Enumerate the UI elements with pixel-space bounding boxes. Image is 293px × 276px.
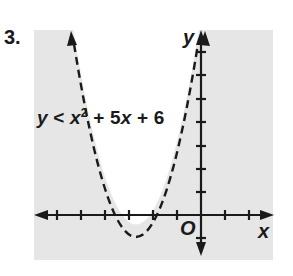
inequality-label: y < x2 + 5x + 6 — [37, 106, 165, 129]
y-axis-label: y — [183, 26, 194, 49]
origin-label: O — [180, 217, 196, 240]
shaded-region — [34, 19, 273, 260]
x-axis-label: x — [258, 220, 269, 243]
coordinate-graph — [0, 0, 293, 276]
